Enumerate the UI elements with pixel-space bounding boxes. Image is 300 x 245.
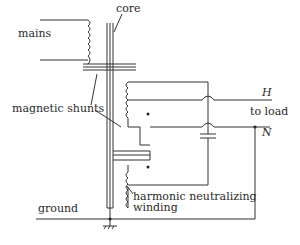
core	[107, 23, 113, 208]
capacitor	[200, 134, 216, 138]
polarity-dot-lower	[147, 166, 150, 169]
label-ground: ground	[38, 203, 78, 215]
polarity-dot-upper	[147, 113, 150, 116]
secondary-winding	[126, 82, 208, 145]
transformer-diagram: mains core magnetic shunts H to load N h…	[0, 0, 300, 245]
ground-symbol	[103, 219, 117, 229]
core-pointer	[114, 14, 122, 32]
label-H: H	[262, 87, 272, 99]
label-N: N	[262, 127, 272, 139]
H-line	[128, 96, 272, 100]
label-magnetic-shunts: magnetic shunts	[12, 103, 104, 115]
label-core: core	[116, 3, 141, 15]
N-line	[150, 123, 270, 127]
label-to-load: to load	[250, 106, 288, 118]
label-mains: mains	[18, 28, 51, 40]
shunt-pointer-upper	[91, 74, 97, 105]
magnetic-shunt-lower	[113, 151, 150, 160]
label-harmonic-line2: winding	[133, 202, 178, 214]
